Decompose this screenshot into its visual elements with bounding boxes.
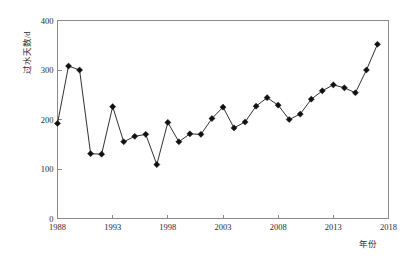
data-series-group: [54, 41, 380, 167]
axis-frame-path: [58, 21, 389, 219]
data-point-marker: [165, 119, 171, 125]
data-point-marker: [88, 151, 94, 157]
data-point-marker: [198, 131, 204, 137]
data-point-marker: [154, 161, 160, 167]
x-tick-label: 2003: [215, 222, 232, 232]
y-tick-label: 100: [41, 164, 54, 174]
data-point-marker: [54, 120, 60, 126]
chart-figure: 0100200300400 19881993199820032008201320…: [0, 0, 419, 263]
y-tick-label: 400: [41, 16, 54, 26]
series-line-path: [58, 44, 378, 164]
data-point-marker: [176, 139, 182, 145]
data-point-marker: [143, 131, 149, 137]
x-tick-label: 2018: [380, 222, 397, 232]
line-chart: 0100200300400 19881993199820032008201320…: [0, 0, 419, 263]
data-point-marker: [121, 139, 127, 145]
data-point-marker: [76, 67, 82, 73]
data-point-marker: [341, 85, 347, 91]
data-point-marker: [65, 63, 71, 69]
plot-frame: [58, 21, 389, 219]
y-axis-title: 过水天数/d: [22, 31, 32, 74]
data-point-marker: [374, 41, 380, 47]
x-tick-label: 1998: [159, 222, 176, 232]
x-tick-label: 2008: [270, 222, 287, 232]
x-axis-title: 年份: [359, 239, 377, 249]
data-point-marker: [110, 104, 116, 110]
data-point-marker: [242, 119, 248, 125]
data-point-marker: [187, 131, 193, 137]
x-tick-label: 2013: [325, 222, 342, 232]
data-point-marker: [99, 151, 105, 157]
x-tick-label: 1993: [104, 222, 121, 232]
y-tick-label: 300: [41, 65, 54, 75]
data-point-marker: [363, 67, 369, 73]
data-point-marker: [330, 82, 336, 88]
data-point-marker: [132, 133, 138, 139]
x-tick-label: 1988: [49, 222, 66, 232]
y-tick-label: 200: [41, 115, 54, 125]
x-axis-ticks: 1988199319982003200820132018: [49, 215, 397, 232]
data-point-marker: [231, 125, 237, 131]
data-point-marker: [352, 90, 358, 96]
